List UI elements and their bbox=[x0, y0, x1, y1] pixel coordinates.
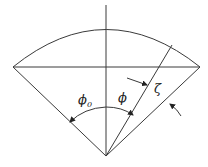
phi-angle-arrow bbox=[106, 107, 133, 115]
phi-label: ϕ bbox=[118, 90, 127, 105]
right-sector-edge bbox=[106, 67, 200, 156]
sector-diagram: ϕ0 ϕ ζ bbox=[0, 0, 208, 167]
phi0-label: ϕ0 bbox=[78, 92, 92, 109]
left-sector-edge bbox=[13, 67, 106, 156]
zeta-label: ζ bbox=[154, 81, 162, 96]
phi0-angle-arrow bbox=[70, 107, 106, 122]
phi-radial-line bbox=[106, 45, 172, 156]
zeta-arrow-upper bbox=[127, 78, 147, 85]
zeta-arrow-lower bbox=[170, 104, 181, 116]
